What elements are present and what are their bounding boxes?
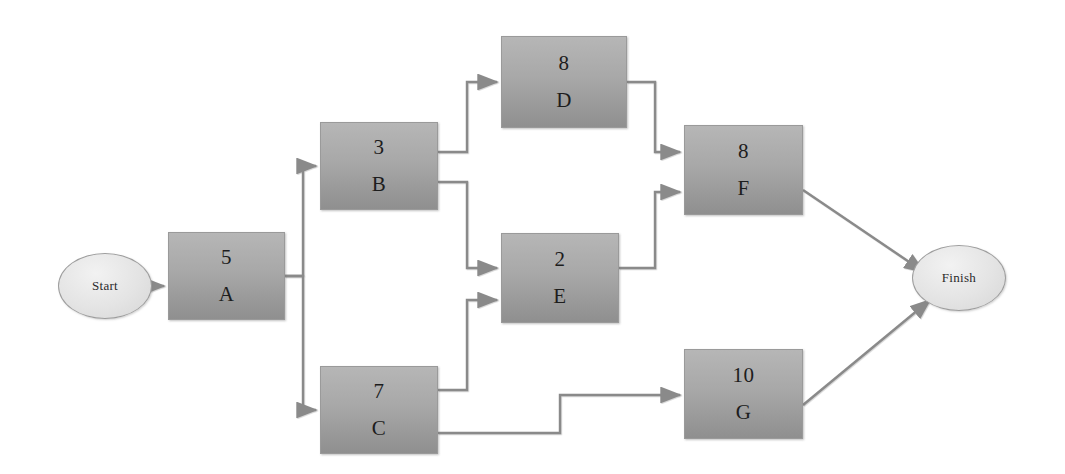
node-b[interactable]: 3B bbox=[320, 122, 438, 210]
node-label: F bbox=[737, 178, 749, 199]
terminator-finish[interactable]: Finish bbox=[912, 245, 1006, 311]
node-label: D bbox=[556, 90, 572, 111]
node-g[interactable]: 10G bbox=[684, 349, 803, 439]
node-label: B bbox=[372, 174, 387, 195]
node-duration: 2 bbox=[555, 249, 566, 270]
node-duration: 5 bbox=[221, 247, 232, 268]
edge-c-g bbox=[438, 395, 680, 433]
node-e[interactable]: 2E bbox=[501, 233, 619, 323]
edge-e-f bbox=[619, 192, 680, 268]
node-duration: 7 bbox=[374, 381, 385, 402]
node-c[interactable]: 7C bbox=[320, 366, 438, 454]
edge-b-e bbox=[438, 182, 497, 268]
node-f[interactable]: 8F bbox=[684, 125, 803, 215]
edge-d-f bbox=[627, 82, 680, 152]
node-duration: 8 bbox=[738, 141, 749, 162]
edge-f-finish bbox=[803, 190, 924, 272]
edge-a-b bbox=[285, 166, 316, 276]
network-diagram-canvas: 5A3B7C8D2E8F10G StartFinish bbox=[0, 0, 1065, 474]
edge-g-finish bbox=[803, 300, 930, 405]
node-duration: 8 bbox=[559, 53, 570, 74]
node-label: A bbox=[219, 284, 235, 305]
terminator-start[interactable]: Start bbox=[58, 253, 152, 319]
terminator-label: Start bbox=[92, 278, 118, 294]
node-d[interactable]: 8D bbox=[501, 36, 627, 128]
edge-a-c bbox=[285, 276, 316, 410]
node-duration: 10 bbox=[733, 365, 755, 386]
node-label: C bbox=[372, 418, 387, 439]
node-label: E bbox=[553, 286, 566, 307]
node-duration: 3 bbox=[374, 137, 385, 158]
edge-b-d bbox=[438, 82, 497, 152]
edge-c-e bbox=[438, 300, 497, 390]
node-a[interactable]: 5A bbox=[168, 232, 285, 320]
node-label: G bbox=[736, 402, 752, 423]
terminator-label: Finish bbox=[942, 270, 976, 286]
